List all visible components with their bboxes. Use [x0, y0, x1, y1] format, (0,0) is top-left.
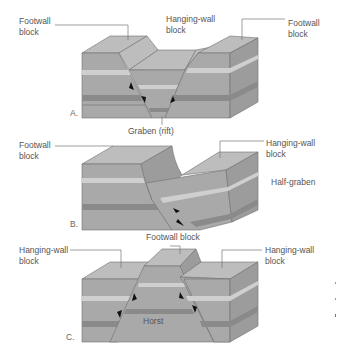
- label-a-center-line1: Hanging-wall: [166, 14, 215, 24]
- label-b-left-line1: Footwall: [19, 140, 51, 150]
- label-a-left-line2: block: [19, 27, 40, 37]
- label-b-right-line1: Hanging-wall: [266, 138, 315, 148]
- diagram-c-horst: Footwall block Hanging-wall block Hangin…: [19, 232, 314, 342]
- label-c-left-line2: block: [19, 256, 40, 266]
- caption-horst: Horst: [143, 316, 164, 326]
- label-a-center-line2: block: [166, 25, 187, 35]
- panel-label-b: B.: [70, 219, 78, 229]
- leader-right-footwall: [242, 19, 285, 40]
- label-c-top: Footwall block: [146, 232, 201, 242]
- label-a-right-line2: block: [288, 29, 309, 39]
- label-c-left-line1: Hanging-wall: [19, 245, 68, 255]
- label-c-right-line1: Hanging-wall: [265, 245, 314, 255]
- diagram-a-graben: Footwall block Hanging-wall block Footwa…: [19, 14, 320, 136]
- label-b-left-line2: block: [19, 151, 40, 161]
- panel-label-a: A.: [70, 108, 78, 118]
- label-a-right-line1: Footwall: [288, 18, 320, 28]
- diagram-b-half-graben: Footwall block Hanging-wall block Half-g…: [19, 138, 316, 230]
- margin-marks: [335, 282, 336, 317]
- caption-graben: Graben (rift): [128, 126, 174, 136]
- label-b-right-line2: block: [266, 149, 287, 159]
- fault-block-diagrams: Footwall block Hanging-wall block Footwa…: [0, 0, 337, 352]
- caption-half-graben: Half-graben: [271, 177, 316, 187]
- panel-label-c: C.: [66, 332, 75, 342]
- label-c-right-line2: block: [265, 256, 286, 266]
- label-a-left-line1: Footwall: [19, 16, 51, 26]
